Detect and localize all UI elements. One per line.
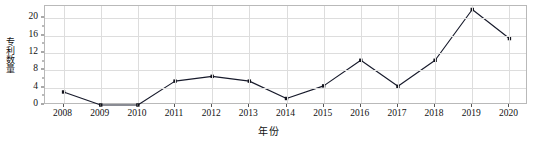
x-tick-label: 2018 <box>425 109 444 119</box>
x-tick-mark <box>471 104 472 107</box>
x-tick-mark <box>508 104 509 107</box>
x-tick-mark <box>63 104 64 107</box>
gridline-vertical <box>398 6 399 103</box>
gridline-horizontal <box>45 53 526 54</box>
gridline-vertical <box>287 6 288 103</box>
x-tick-label: 2013 <box>239 109 258 119</box>
x-tick-mark <box>174 104 175 107</box>
y-axis-title-label: 专利数量 <box>6 37 15 73</box>
x-tick-label: 2010 <box>127 109 146 119</box>
x-tick-mark <box>434 104 435 107</box>
x-tick-label: 2014 <box>276 109 295 119</box>
plot-area <box>44 5 527 104</box>
x-axis-title: 年份 <box>0 123 537 138</box>
patent-count-line-chart: 专利数量 048121620 2008200920102011201220132… <box>0 0 537 142</box>
gridline-horizontal <box>45 36 526 37</box>
gridline-vertical <box>324 6 325 103</box>
gridline-horizontal <box>45 70 526 71</box>
x-tick-label: 2009 <box>90 109 109 119</box>
x-tick-label: 2015 <box>313 109 332 119</box>
gridline-vertical <box>509 6 510 103</box>
x-tick-mark <box>137 104 138 107</box>
gridline-vertical <box>361 6 362 103</box>
gridline-vertical <box>435 6 436 103</box>
x-tick-mark <box>248 104 249 107</box>
x-tick-label: 2019 <box>462 109 481 119</box>
gridline-vertical <box>138 6 139 103</box>
x-tick-label: 2017 <box>387 109 406 119</box>
x-tick-label: 2020 <box>499 109 518 119</box>
gridline-horizontal <box>45 18 526 19</box>
gridline-vertical <box>472 6 473 103</box>
x-tick-mark <box>323 104 324 107</box>
x-tick-label: 2008 <box>53 109 72 119</box>
gridline-vertical <box>64 6 65 103</box>
x-tick-label: 2016 <box>350 109 369 119</box>
x-tick-mark <box>100 104 101 107</box>
x-tick-mark <box>397 104 398 107</box>
gridline-horizontal <box>45 88 526 89</box>
x-tick-mark <box>286 104 287 107</box>
x-tick-mark <box>360 104 361 107</box>
x-tick-mark <box>211 104 212 107</box>
gridline-vertical <box>175 6 176 103</box>
x-tick-label: 2011 <box>165 109 184 119</box>
gridline-vertical <box>212 6 213 103</box>
gridline-vertical <box>101 6 102 103</box>
y-axis-title: 专利数量 <box>0 0 20 110</box>
x-tick-label: 2012 <box>202 109 221 119</box>
gridline-vertical <box>249 6 250 103</box>
